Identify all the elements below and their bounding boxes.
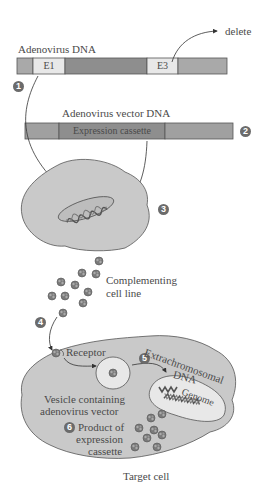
product-label-line1: Product of [78,421,124,433]
step-2-badge: 2 [240,126,251,137]
target-cell-label: Target cell [123,470,169,482]
vesicle-label-line2: adenovirus vector [40,405,119,417]
complementing-label: Complementing [106,274,177,286]
receptor-label: Receptor [66,346,106,358]
step-6-badge: 6 [64,422,75,433]
cell-line-label: cell line [106,287,141,299]
vesicle-label-line1: Vesicle containing [44,393,125,405]
expression-cassette-label: Expression cassette [59,123,165,139]
diagram-canvas [0,0,269,495]
delete-arrow [172,31,217,62]
e3-segment-label: E3 [147,58,178,74]
virion-cluster [48,257,103,317]
vector-dna-label: Adenovirus vector DNA [62,107,170,119]
infection-arrow [49,317,57,350]
step-4-badge: 4 [35,317,46,328]
adenovirus-dna-label: Adenovirus DNA [18,43,96,55]
step-3-badge: 3 [158,204,169,215]
delete-label: delete [225,25,251,37]
product-label-line3: cassette [88,445,122,457]
e1-segment-label: E1 [33,58,65,74]
step-1-badge: 1 [13,81,24,92]
product-label-line2: expression [76,433,123,445]
